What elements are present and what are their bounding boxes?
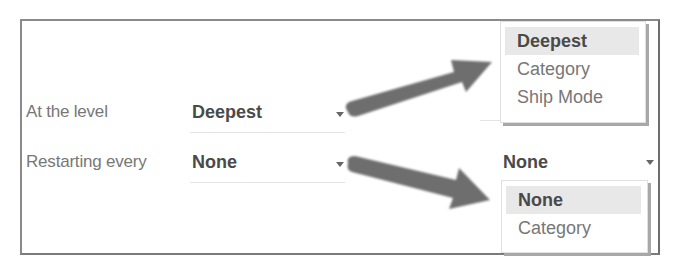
level-dropdown-menu: Deepest Category Ship Mode: [500, 21, 646, 123]
level-label: At the level: [26, 102, 108, 122]
restart-select-underline: [190, 182, 345, 183]
level-select[interactable]: Deepest: [190, 98, 345, 132]
restart-option-category[interactable]: Category: [506, 214, 641, 242]
restart-select-value: None: [192, 152, 237, 173]
restart-select[interactable]: None: [190, 148, 345, 182]
restart-dropdown-menu: None Category: [501, 180, 648, 253]
level-option-category[interactable]: Category: [505, 55, 639, 83]
restart-label: Restarting every: [26, 152, 147, 172]
chevron-down-icon: [646, 160, 654, 165]
level-select-underline: [190, 132, 345, 133]
level-option-ship-mode[interactable]: Ship Mode: [505, 83, 639, 111]
restart-select-expanded-value: None: [503, 152, 548, 173]
restart-option-none[interactable]: None: [506, 186, 641, 214]
restart-select-expanded[interactable]: None: [500, 148, 660, 178]
level-dropdown-underline: [480, 120, 500, 121]
chevron-down-icon: [336, 162, 344, 167]
chevron-down-icon: [336, 112, 344, 117]
level-option-deepest[interactable]: Deepest: [505, 27, 639, 55]
level-select-value: Deepest: [192, 102, 262, 123]
